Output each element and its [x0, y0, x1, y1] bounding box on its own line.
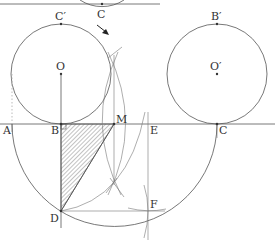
- arc-cross-f: [128, 208, 166, 211]
- label-e: E: [150, 124, 158, 137]
- label-o-prime: O′: [210, 60, 222, 73]
- point-d: [60, 210, 63, 213]
- point-o-prime: [216, 73, 218, 75]
- label-a: A: [2, 124, 12, 137]
- point-c: [216, 123, 219, 126]
- point-c-prime: [60, 23, 62, 25]
- label-b-prime: B′: [211, 10, 222, 23]
- label-c-prime: C′: [55, 10, 66, 23]
- label-b: B: [51, 124, 59, 137]
- geometry-diagram: C C′ B′ O O′ A B M E C D F: [0, 0, 275, 241]
- label-f: F: [150, 198, 158, 211]
- point-b: [60, 123, 63, 126]
- label-c: C: [219, 124, 227, 137]
- label-o: O: [56, 60, 65, 73]
- point-b-prime: [216, 23, 218, 25]
- label-d: D: [50, 212, 59, 225]
- point-m: [113, 123, 116, 126]
- cross-bottom-2: [110, 178, 124, 197]
- arc-near-f: [144, 185, 148, 238]
- point-c-top: [101, 3, 103, 5]
- cross-top-1: [108, 47, 122, 58]
- label-c-top: C: [97, 8, 105, 21]
- label-m: M: [116, 113, 127, 126]
